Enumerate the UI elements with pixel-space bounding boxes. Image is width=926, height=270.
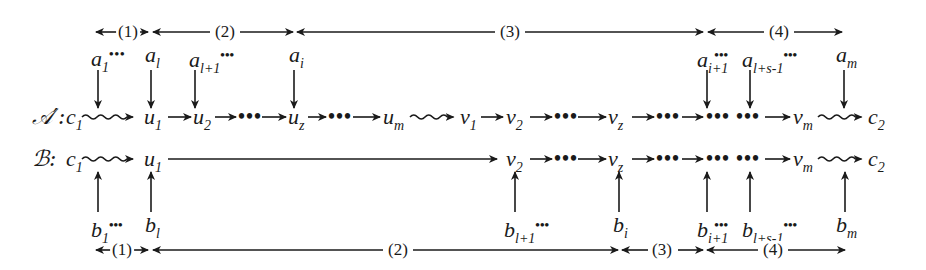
a-label: ai+1••• — [697, 44, 728, 80]
node-um: um — [383, 106, 404, 137]
a-label: al+1••• — [189, 44, 234, 80]
a-label: al — [145, 44, 160, 75]
node-v1: v1 — [460, 106, 477, 137]
top-range-label-2: (2) — [213, 23, 237, 40]
ellipsis: ••• — [656, 148, 680, 168]
ellipsis: ••• ••• — [706, 148, 760, 168]
node-v2: v2 — [506, 148, 523, 179]
node-c2: c2 — [868, 106, 885, 137]
node-uz: uz — [288, 106, 304, 137]
top-range-label-3: (3) — [498, 23, 522, 40]
bottom-range-label-4: (4) — [761, 241, 785, 258]
node-v2: v2 — [506, 106, 523, 137]
b-label: bl+1••• — [504, 214, 549, 250]
b-label: bi — [613, 214, 628, 245]
node-vm: vm — [793, 106, 813, 137]
node-vz: vz — [608, 148, 623, 179]
node-c1: c1 — [66, 148, 83, 179]
ellipsis: ••• — [328, 106, 352, 126]
a-label: a1••• — [91, 44, 126, 79]
node-u1: u1 — [144, 148, 162, 179]
ellipsis: ••• — [554, 106, 578, 126]
node-vz: vz — [608, 106, 623, 137]
b-label: bm — [836, 214, 857, 245]
b-label: bl — [145, 214, 160, 245]
node-c2: c2 — [868, 148, 885, 179]
ellipsis: ••• — [554, 148, 578, 168]
node-vm: vm — [793, 148, 813, 179]
node-u1: u1 — [144, 106, 162, 137]
row-a-name: 𝒜′: — [32, 106, 65, 128]
b-label: bi+1••• — [697, 214, 728, 250]
ellipsis: ••• ••• — [706, 106, 760, 126]
bottom-range-label-1: (1) — [110, 241, 134, 258]
ellipsis: ••• — [238, 106, 262, 126]
a-label: ai — [289, 44, 304, 75]
row-b-name: ℬ: — [32, 148, 56, 170]
a-label: am — [836, 44, 857, 75]
node-u2: u2 — [193, 106, 211, 137]
node-c1: c1 — [66, 106, 83, 137]
top-range-label-4: (4) — [767, 23, 791, 40]
ellipsis: ••• — [656, 106, 680, 126]
b-up-arrows — [98, 172, 845, 212]
top-range-label-1: (1) — [116, 23, 140, 40]
a-label: al+s-1••• — [742, 44, 797, 80]
bottom-range-label-3: (3) — [650, 241, 674, 258]
bottom-range-label-2: (2) — [386, 241, 410, 258]
